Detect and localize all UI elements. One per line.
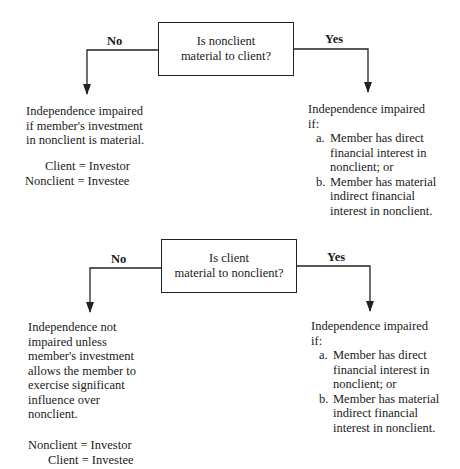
bottom-no-outcome-line: exercise significant bbox=[28, 378, 136, 393]
bottom-yes-label: Yes bbox=[327, 250, 345, 264]
item-marker: a. bbox=[319, 348, 333, 363]
item-line: indirect financial bbox=[308, 189, 436, 204]
item-line: indirect financial bbox=[311, 406, 439, 421]
top-yes-item-b: b.Member has material indirect financial… bbox=[308, 175, 436, 219]
bottom-no-outcome-line: impaired unless bbox=[28, 335, 136, 350]
bottom-no-outcome-line: influence over bbox=[28, 393, 136, 408]
top-equivalence-client: Client = Investor bbox=[45, 159, 130, 174]
top-yes-intro-line: if: bbox=[308, 117, 436, 132]
top-question-line-2: material to client? bbox=[181, 49, 271, 64]
top-no-connector bbox=[83, 50, 158, 95]
item-marker: b. bbox=[319, 392, 333, 407]
item-marker: a. bbox=[316, 131, 330, 146]
top-yes-intro-line: Independence impaired bbox=[308, 102, 436, 117]
bottom-question-line-1: Is client bbox=[209, 251, 249, 266]
bottom-no-outcome-line: nonclient. bbox=[28, 407, 136, 422]
item-line: nonclient; or bbox=[311, 377, 439, 392]
top-no-outcome-line: in nonclient is material. bbox=[26, 133, 144, 148]
bottom-no-outcome-line: member's investment bbox=[28, 349, 136, 364]
bottom-no-arrow-icon bbox=[86, 302, 94, 313]
top-yes-outcome: Independence impaired if: a.Member has d… bbox=[308, 102, 436, 218]
top-no-arrow-icon bbox=[83, 84, 91, 95]
item-line: interest in nonclient. bbox=[308, 204, 436, 219]
bottom-equivalence-client: Client = Investee bbox=[48, 453, 134, 468]
bottom-yes-item-a: a.Member has direct financial interest i… bbox=[311, 348, 439, 392]
independence-flowchart: Is nonclient material to client? No Yes … bbox=[0, 0, 460, 469]
bottom-yes-outcome: Independence impaired if: a.Member has d… bbox=[311, 319, 439, 435]
bottom-yes-intro-line: if: bbox=[311, 334, 439, 349]
bottom-yes-connector bbox=[297, 266, 374, 312]
item-line: Member has material bbox=[333, 392, 439, 406]
item-line: nonclient; or bbox=[308, 160, 436, 175]
bottom-yes-item-b: b.Member has material indirect financial… bbox=[311, 392, 439, 436]
item-line: Member has direct bbox=[333, 348, 427, 362]
bottom-no-outcome-line: allows the member to bbox=[28, 364, 136, 379]
item-line: financial interest in bbox=[311, 363, 439, 378]
top-no-outcome: Independence impaired if member's invest… bbox=[26, 104, 144, 148]
item-line: financial interest in bbox=[308, 146, 436, 161]
item-line: interest in nonclient. bbox=[311, 421, 439, 436]
top-yes-item-a: a.Member has direct financial interest i… bbox=[308, 131, 436, 175]
item-line: Member has direct bbox=[330, 131, 424, 145]
bottom-question-line-2: material to nonclient? bbox=[175, 266, 284, 281]
top-yes-arrow-icon bbox=[364, 82, 372, 93]
top-no-outcome-line: Independence impaired bbox=[26, 104, 144, 119]
item-line: Member has material bbox=[330, 175, 436, 189]
top-yes-connector bbox=[294, 49, 372, 93]
bottom-decision-box: Is client material to nonclient? bbox=[161, 239, 297, 293]
top-no-outcome-line: if member's investment bbox=[26, 119, 144, 134]
top-question-line-1: Is nonclient bbox=[197, 34, 256, 49]
bottom-yes-arrow-icon bbox=[366, 301, 374, 312]
bottom-no-label: No bbox=[111, 252, 126, 266]
top-no-label: No bbox=[107, 34, 122, 48]
bottom-no-outcome: Independence not impaired unless member'… bbox=[28, 320, 136, 422]
top-equivalence-nonclient: Nonclient = Investee bbox=[25, 174, 129, 189]
top-yes-label: Yes bbox=[325, 32, 343, 46]
bottom-no-connector bbox=[86, 268, 161, 313]
item-marker: b. bbox=[316, 175, 330, 190]
bottom-yes-intro-line: Independence impaired bbox=[311, 319, 439, 334]
bottom-no-outcome-line: Independence not bbox=[28, 320, 136, 335]
top-decision-box: Is nonclient material to client? bbox=[158, 22, 294, 76]
bottom-equivalence-nonclient: Nonclient = Investor bbox=[28, 438, 132, 453]
